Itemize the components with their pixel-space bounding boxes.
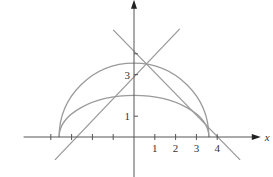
axis-labels: 123413xy [125,0,270,154]
coordinate-plot: 123413xy [0,0,273,177]
x-axis-label: x [264,131,270,143]
x-tick-label: 1 [152,142,158,154]
x-tick-label: 2 [173,142,179,154]
rising-line [55,29,180,160]
y-axis-arrow-icon [131,0,137,9]
axes [24,0,261,177]
y-tick-label: 1 [125,110,131,122]
x-tick-label: 3 [194,142,200,154]
x-tick-label: 4 [214,142,220,154]
y-tick-label: 3 [125,69,131,81]
x-axis-arrow-icon [252,134,261,140]
plot-curves [55,29,240,160]
